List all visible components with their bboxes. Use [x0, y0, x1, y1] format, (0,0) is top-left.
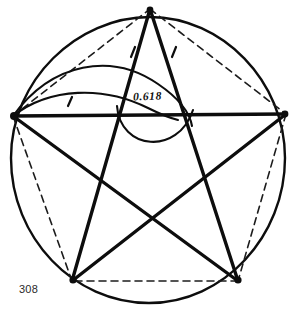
tick-top-left-edge-icon	[131, 47, 135, 57]
tick-left-chord-icon	[68, 97, 72, 106]
figure-canvas: 0.618 308	[0, 0, 293, 311]
star-edge-bottom-left-to-top	[72, 9, 150, 281]
vertex-right-marker	[282, 111, 289, 118]
outer-circle-group	[11, 17, 285, 303]
vertex-bottom-left-marker	[69, 276, 76, 283]
golden-ratio-label: 0.618	[133, 89, 162, 102]
tick-top-right-edge-icon	[172, 47, 176, 57]
outer-circle	[11, 17, 285, 303]
pentagram-star-group	[13, 9, 286, 281]
page-number: 308	[19, 283, 38, 295]
pentagon-edge-top-right	[150, 9, 286, 114]
pentagon-edge-bottom-left	[13, 116, 72, 281]
pentagram-figure-svg	[0, 0, 293, 311]
star-edge-left-to-right	[13, 114, 286, 116]
star-edge-right-to-bottom-left	[72, 114, 286, 281]
vertex-left-marker	[10, 112, 18, 120]
star-edge-top-to-bottom-right	[150, 9, 238, 281]
vertex-bottom-right-marker	[234, 276, 241, 283]
vertex-top-marker	[147, 7, 154, 14]
construction-arcs-group	[13, 66, 193, 142]
